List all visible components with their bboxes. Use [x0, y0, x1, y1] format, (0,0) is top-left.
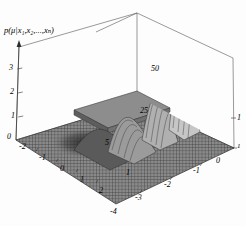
- label-leader-line: [96, 13, 137, 32]
- y-tick-m1: -1: [193, 166, 200, 175]
- x-tick-m1: -1: [39, 153, 46, 162]
- x-tick-0: 0: [60, 164, 64, 173]
- ridge-n50: [169, 59, 200, 140]
- peak-label-25: 25: [140, 106, 148, 115]
- y-tick-1-back: 1: [237, 113, 241, 122]
- x-tick-1: 1: [80, 175, 84, 184]
- y-tick-m3: -3: [135, 193, 142, 202]
- figure-3d-surface-plot: p(μ|x₁,x₂,...,xₙ) 3 2 1 0 -2 -1 0 1 2 -4…: [0, 0, 246, 226]
- x-tick-2: 2: [99, 186, 103, 195]
- peak-label-5: 5: [105, 138, 109, 147]
- y-tick-0-back: 0: [216, 156, 220, 165]
- z-axis-label: p(μ|x₁,x₂,...,xₙ): [4, 25, 54, 35]
- right-corner-tick: 1: [237, 142, 241, 150]
- z-tick-3: 3: [9, 63, 13, 72]
- z-axis: [16, 40, 23, 140]
- peak-label-1: 1: [126, 168, 130, 177]
- z-tick-2: 2: [10, 87, 14, 96]
- peak-label-50: 50: [151, 64, 159, 73]
- front-vertex-tick: -4: [110, 207, 117, 216]
- z-tick-1: 1: [11, 111, 15, 120]
- y-tick-m2: -2: [164, 180, 171, 189]
- x-tick-m2: -2: [19, 142, 26, 151]
- z-tick-0: 0: [7, 132, 11, 141]
